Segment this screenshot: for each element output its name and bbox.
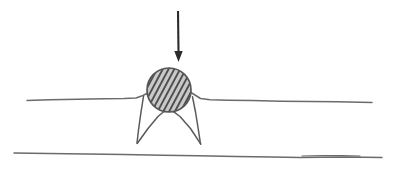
force-arrow-head-icon <box>174 51 182 62</box>
disk-hatching <box>123 45 216 135</box>
upper-line-left-segment <box>27 93 149 101</box>
force-arrow <box>174 11 182 62</box>
sketch-canvas <box>0 0 400 175</box>
upper-line-right-segment <box>190 92 372 103</box>
force-arrow-shaft <box>178 11 179 52</box>
sketch-figure <box>0 0 400 175</box>
hatched-disk <box>123 45 216 135</box>
left-leg-inner-stroke <box>137 111 165 144</box>
